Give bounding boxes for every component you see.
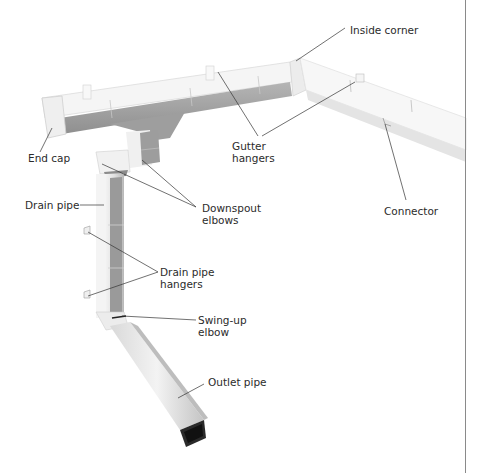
label-downspout-elbows: Downspout elbows [202, 202, 261, 226]
label-swing-up-elbow-line1: Swing-up [198, 314, 247, 326]
label-drain-pipe-hangers-line1: Drain pipe [160, 266, 214, 278]
label-swing-up-elbow-line2: elbow [198, 326, 247, 338]
label-gutter-hangers: Gutter hangers [232, 140, 275, 164]
label-inside-corner: Inside corner [350, 24, 418, 36]
label-downspout-elbows-line1: Downspout [202, 202, 261, 214]
label-drain-pipe: Drain pipe [25, 199, 79, 211]
gutter-diagram: Inside corner End cap Gutter hangers Dra… [0, 0, 483, 473]
gutter-illustration [0, 0, 483, 473]
label-drain-pipe-hangers: Drain pipe hangers [160, 266, 214, 290]
label-connector: Connector [384, 205, 438, 217]
label-downspout-elbows-line2: elbows [202, 214, 261, 226]
label-swing-up-elbow: Swing-up elbow [198, 314, 247, 338]
outlet-pipe [110, 322, 208, 447]
gutter-right-run [290, 58, 466, 162]
drain-pipe [84, 173, 124, 318]
label-end-cap: End cap [28, 152, 70, 164]
label-drain-pipe-hangers-line2: hangers [160, 278, 214, 290]
label-gutter-hangers-line2: hangers [232, 152, 275, 164]
label-gutter-hangers-line1: Gutter [232, 140, 275, 152]
page-rule [465, 0, 466, 473]
label-outlet-pipe: Outlet pipe [208, 376, 267, 388]
